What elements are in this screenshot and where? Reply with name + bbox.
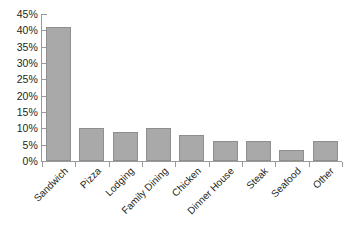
bar-slot <box>142 14 175 161</box>
bar-series <box>42 14 342 161</box>
bar-slot <box>275 14 308 161</box>
bar <box>313 141 338 161</box>
x-axis-tick-label: Pizza <box>79 166 103 190</box>
bar <box>213 141 238 161</box>
y-axis-tick-label: 20% <box>17 90 38 101</box>
x-axis-tick-label: Lodging <box>104 166 136 198</box>
x-axis-tick-mark <box>342 162 343 167</box>
bar-chart: 0%5%10%15%20%25%30%35%40%45% SandwichPiz… <box>0 0 344 233</box>
y-axis-tick-label: 45% <box>17 9 38 20</box>
x-axis-tick-label: Seafood <box>270 166 303 199</box>
y-axis-tick-label: 30% <box>17 58 38 69</box>
bar <box>279 150 304 161</box>
y-axis: 0%5%10%15%20%25%30%35%40%45% <box>0 0 38 165</box>
bar <box>46 27 71 161</box>
x-axis-tick-label: Steak <box>245 166 270 191</box>
bar <box>79 128 104 161</box>
x-axis: SandwichPizzaLodgingFamily DiningChicken… <box>42 166 342 233</box>
x-axis-tick-label: Other <box>312 166 337 191</box>
y-axis-tick-label: 35% <box>17 41 38 52</box>
y-axis-tick-label: 5% <box>23 139 38 150</box>
y-axis-tick-label: 40% <box>17 25 38 36</box>
bar-slot <box>75 14 108 161</box>
bar <box>246 141 271 161</box>
y-axis-tick-label: 10% <box>17 123 38 134</box>
plot-area <box>42 14 342 161</box>
bar-slot <box>109 14 142 161</box>
x-axis-tick-label: Sandwich <box>32 166 70 204</box>
bar-slot <box>175 14 208 161</box>
bar <box>146 128 171 161</box>
y-axis-tick-label: 0% <box>23 156 38 167</box>
x-axis-spine <box>41 161 342 162</box>
y-axis-tick-label: 15% <box>17 107 38 118</box>
bar <box>179 135 204 161</box>
bar-slot <box>309 14 342 161</box>
bar <box>113 132 138 161</box>
bar-slot <box>209 14 242 161</box>
bar-slot <box>42 14 75 161</box>
bar-slot <box>242 14 275 161</box>
y-axis-tick-label: 25% <box>17 74 38 85</box>
